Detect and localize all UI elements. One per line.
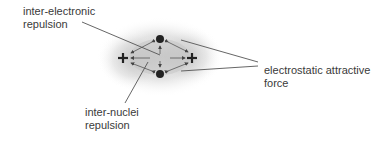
label-inter-nuclei-repulsion: inter-nuclei repulsion	[85, 106, 139, 132]
label-inter-electronic-repulsion: inter-electronic repulsion	[23, 5, 95, 31]
electron-cloud	[96, 17, 224, 97]
label-electrostatic-attractive-force: electrostatic attractive force	[264, 64, 370, 90]
electron-bottom	[156, 70, 164, 78]
electron-top	[156, 35, 164, 43]
